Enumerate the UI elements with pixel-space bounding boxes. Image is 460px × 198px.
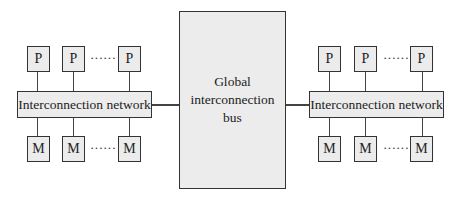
label: M: [323, 141, 335, 157]
label: Interconnection network: [310, 97, 442, 113]
right-interconnection-network: Interconnection network: [309, 91, 444, 118]
label: M: [415, 141, 427, 157]
connector: [129, 118, 130, 136]
bus-label-line1: Global: [214, 73, 251, 91]
left-memory-ellipsis: ······: [90, 140, 116, 156]
right-processor-2: P: [354, 46, 377, 72]
left-processor-2: P: [62, 46, 85, 72]
label: P: [70, 51, 78, 67]
label: M: [359, 141, 371, 157]
connector: [329, 118, 330, 136]
right-memory-ellipsis: ······: [383, 140, 409, 156]
left-processor-ellipsis: ······: [90, 50, 116, 66]
bus-label-line2: interconnection: [191, 91, 275, 109]
label: Interconnection network: [18, 97, 150, 113]
left-memory-3: M: [118, 136, 141, 162]
left-bus-link: [152, 104, 179, 106]
connector: [73, 72, 74, 91]
right-memory-1: M: [318, 136, 341, 162]
left-interconnection-network: Interconnection network: [17, 91, 152, 118]
right-processor-3: P: [410, 46, 433, 72]
bus-label-line3: bus: [223, 109, 242, 127]
label: M: [123, 141, 135, 157]
connector: [37, 72, 38, 91]
connector: [422, 118, 423, 136]
right-bus-link: [285, 104, 309, 106]
global-interconnection-bus: Global interconnection bus: [179, 11, 286, 189]
connector: [365, 72, 366, 91]
right-memory-3: M: [410, 136, 433, 162]
connector: [129, 72, 130, 91]
connector: [329, 72, 330, 91]
label: P: [126, 51, 134, 67]
connector: [37, 118, 38, 136]
left-processor-3: P: [118, 46, 141, 72]
label: P: [326, 51, 334, 67]
connector: [422, 72, 423, 91]
left-memory-2: M: [62, 136, 85, 162]
label: P: [35, 51, 43, 67]
label: M: [67, 141, 79, 157]
right-processor-ellipsis: ······: [383, 50, 409, 66]
left-memory-1: M: [27, 136, 50, 162]
connector: [365, 118, 366, 136]
right-memory-2: M: [354, 136, 377, 162]
right-processor-1: P: [318, 46, 341, 72]
left-processor-1: P: [27, 46, 50, 72]
label: P: [362, 51, 370, 67]
connector: [73, 118, 74, 136]
label: P: [418, 51, 426, 67]
label: M: [32, 141, 44, 157]
